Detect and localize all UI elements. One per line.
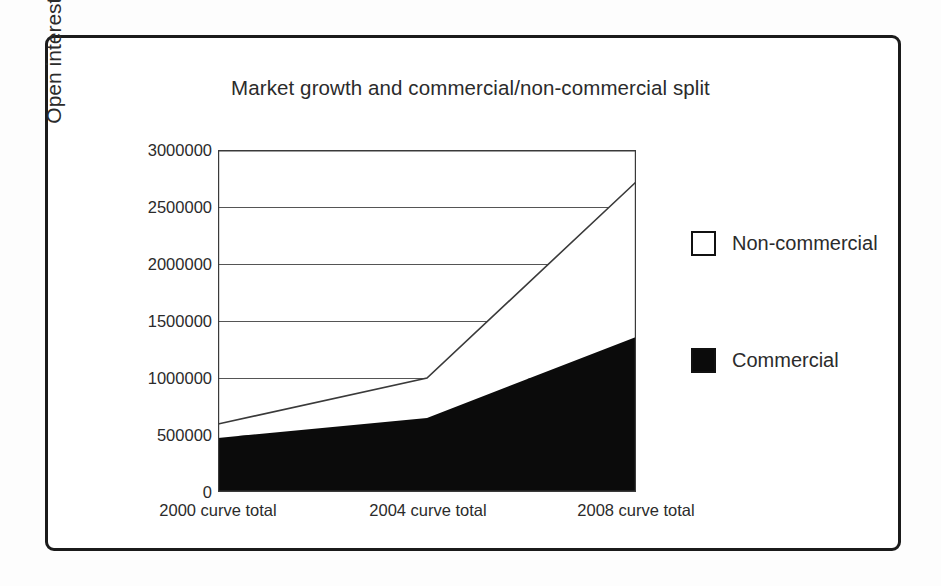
legend-item-non-commercial: Non-commercial xyxy=(691,231,878,256)
chart-figure: Market growth and commercial/non-commerc… xyxy=(0,0,941,586)
legend-label: Commercial xyxy=(732,349,839,372)
x-tick-label: 2000 curve total xyxy=(118,501,318,520)
chart-title: Market growth and commercial/non-commerc… xyxy=(0,76,941,100)
legend-swatch-filled-square-icon xyxy=(691,348,716,373)
legend-swatch-open-square-icon xyxy=(691,231,716,256)
y-tick-label: 2000000 xyxy=(92,255,212,274)
x-axis-tick-labels: 2000 curve total 2004 curve total 2008 c… xyxy=(150,501,710,527)
y-tick-label: 1000000 xyxy=(92,369,212,388)
x-tick-label: 2008 curve total xyxy=(536,501,736,520)
y-tick-label: 500000 xyxy=(92,426,212,445)
y-tick-label: 2500000 xyxy=(92,198,212,217)
plot-area xyxy=(218,150,636,492)
y-tick-label: 3000000 xyxy=(92,141,212,160)
y-tick-label: 1500000 xyxy=(92,312,212,331)
legend-label: Non-commercial xyxy=(732,232,878,255)
area-chart-svg xyxy=(218,150,636,492)
legend-item-commercial: Commercial xyxy=(691,348,839,373)
y-axis-title: Open interest (conracts) xyxy=(36,0,72,184)
y-tick-label: 0 xyxy=(92,483,212,502)
y-axis-tick-labels: 3000000 2500000 2000000 1500000 1000000 … xyxy=(84,150,212,492)
x-tick-label: 2004 curve total xyxy=(328,501,528,520)
